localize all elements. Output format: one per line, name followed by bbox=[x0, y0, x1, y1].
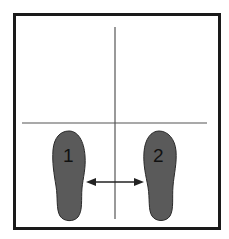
foot-position-diagram: 1 2 bbox=[0, 0, 229, 239]
foot-label-1: 1 bbox=[63, 145, 74, 166]
diagram-frame bbox=[15, 15, 220, 229]
foot-label-2: 2 bbox=[153, 145, 164, 166]
left-footprint-icon: 1 bbox=[53, 131, 85, 221]
